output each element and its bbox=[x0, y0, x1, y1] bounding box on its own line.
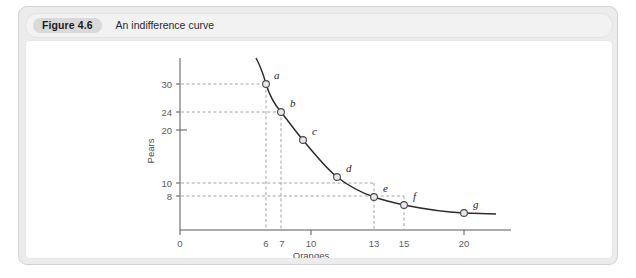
indifference-curve-chart: a b c d e f g 30 24 20 10 8 0 6 7 10 13 … bbox=[26, 41, 613, 259]
x-axis-title: Oranges bbox=[293, 250, 330, 259]
data-point-c[interactable] bbox=[300, 137, 307, 144]
x-tick-label-7: 7 bbox=[279, 238, 284, 249]
data-point-g[interactable] bbox=[461, 210, 468, 217]
plot-canvas: a b c d e f g 30 24 20 10 8 0 6 7 10 13 … bbox=[25, 40, 613, 259]
data-point-a[interactable] bbox=[263, 81, 270, 88]
point-label-b: b bbox=[290, 97, 296, 109]
data-point-b[interactable] bbox=[278, 109, 285, 116]
data-point-d[interactable] bbox=[334, 174, 341, 181]
point-label-c: c bbox=[312, 125, 317, 137]
point-label-e: e bbox=[383, 182, 388, 194]
figure-panel: Figure 4.6 An indifference curve bbox=[18, 6, 618, 265]
x-tick-label-0: 0 bbox=[177, 238, 182, 249]
point-label-a: a bbox=[274, 69, 280, 81]
x-tick-label-20: 20 bbox=[459, 238, 470, 249]
x-tick-label-15: 15 bbox=[399, 238, 410, 249]
x-tick-label-10: 10 bbox=[306, 238, 317, 249]
y-tick-label-20: 20 bbox=[161, 125, 172, 136]
figure-header: Figure 4.6 An indifference curve bbox=[25, 13, 613, 38]
y-tick-label-8: 8 bbox=[167, 191, 172, 202]
point-label-f: f bbox=[413, 190, 418, 202]
figure-caption: An indifference curve bbox=[116, 20, 214, 31]
x-tick-label-13: 13 bbox=[369, 238, 380, 249]
y-tick-label-10: 10 bbox=[161, 178, 172, 189]
y-tick-label-30: 30 bbox=[161, 79, 172, 90]
x-tick-label-6: 6 bbox=[263, 238, 268, 249]
point-label-d: d bbox=[346, 162, 352, 174]
y-axis-title: Pears bbox=[145, 138, 156, 163]
y-tick-label-24: 24 bbox=[161, 107, 172, 118]
data-point-f[interactable] bbox=[401, 202, 408, 209]
point-label-g: g bbox=[473, 198, 479, 210]
indifference-curve-line bbox=[256, 58, 496, 214]
figure-number-badge: Figure 4.6 bbox=[33, 18, 102, 34]
data-point-e[interactable] bbox=[371, 194, 378, 201]
